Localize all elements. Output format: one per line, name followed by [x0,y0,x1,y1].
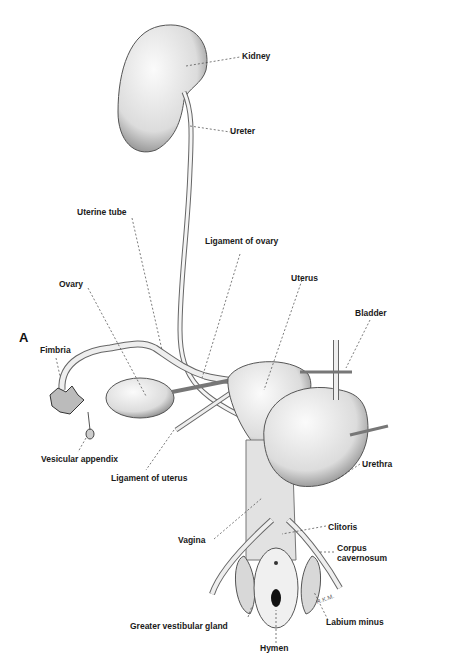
label-ligament-of-ovary: Ligament of ovary [205,236,278,246]
label-ovary: Ovary [59,279,83,289]
label-uterus: Uterus [291,273,318,283]
label-fimbria: Fimbria [40,345,71,355]
bladder-shape [264,387,368,486]
label-clitoris: Clitoris [328,522,357,532]
label-kidney: Kidney [242,51,270,61]
fimbria-shape [50,386,84,414]
label-uterine-tube: Uterine tube [77,207,127,217]
kidney-shape [118,25,207,152]
label-vagina: Vagina [178,535,205,545]
label-urethra: Urethra [362,459,392,469]
label-corpus-cavernosum-line1: Corpus [337,543,387,553]
label-hymen: Hymen [260,643,288,653]
label-corpus-cavernosum-line2: cavernosum [337,553,387,563]
hymen-opening [271,589,281,607]
label-ligament-of-uterus: Ligament of uterus [111,473,188,483]
diagram-drawing [0,0,466,668]
anatomy-diagram: A Kidney Ureter Uterine tube Ligament of… [0,0,466,668]
label-vesicular-appendix: Vesicular appendix [41,454,118,464]
vestibule-shape [254,548,298,628]
label-labium-minus: Labium minus [326,617,384,627]
label-bladder: Bladder [355,308,387,318]
ovary-shape [106,378,174,418]
label-ureter: Ureter [230,126,255,136]
label-corpus-cavernosum: Corpus cavernosum [337,543,387,563]
panel-letter: A [19,330,28,345]
vesicular-appendix-shape [86,429,94,439]
label-greater-vestibular-gland: Greater vestibular gland [130,621,228,631]
